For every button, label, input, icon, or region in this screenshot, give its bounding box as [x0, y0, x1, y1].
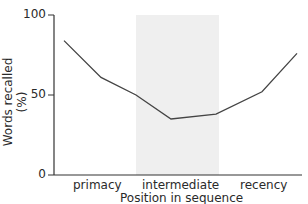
x-category-primacy: primacy	[73, 178, 122, 192]
y-axis-label: Words recalled (%)	[1, 47, 29, 157]
x-axis-label: Position in sequence	[120, 191, 243, 204]
intermediate-shaded-region	[136, 15, 219, 175]
chart-canvas	[0, 0, 308, 204]
y-tick-label-100: 100	[16, 7, 46, 21]
x-category-intermediate: intermediate	[142, 178, 219, 192]
serial-position-chart: 100 50 0 Words recalled (%) primacy inte…	[0, 0, 308, 204]
y-tick-label-0: 0	[16, 167, 46, 181]
x-category-recency: recency	[240, 178, 287, 192]
